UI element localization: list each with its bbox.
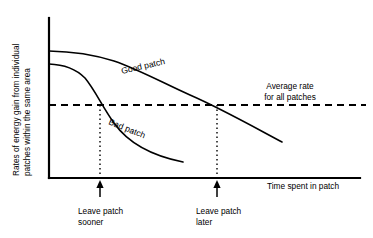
arrow-head-leave-sooner <box>96 180 103 188</box>
arrow-head-leave-later <box>213 180 220 188</box>
leave-sooner-label-line2: sooner <box>78 217 104 227</box>
average-rate-label-line2: for all patches <box>264 92 316 102</box>
leave-later-label-line1: Leave patch <box>196 206 242 216</box>
average-rate-label-line1: Average rate <box>266 81 314 91</box>
patch-foraging-diagram: Rates of energy gain from individual pat… <box>0 0 373 238</box>
y-axis-label-line1: Rates of energy gain from individual <box>11 43 21 176</box>
x-axis-label: Time spent in patch <box>267 181 339 191</box>
leave-later-label-line2: later <box>196 217 212 227</box>
bad-patch-curve <box>49 64 183 162</box>
good-patch-curve <box>49 51 282 142</box>
diagram-canvas: Rates of energy gain from individual pat… <box>0 0 373 238</box>
leave-sooner-label-line1: Leave patch <box>78 206 124 216</box>
y-axis-label-line2: patches within the same area <box>22 68 32 176</box>
